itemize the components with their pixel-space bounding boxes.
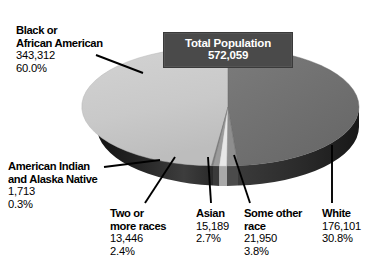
callout-value: 21,950: [244, 232, 302, 245]
callout-two-or-more-races: Two or more races 13,446 2.4%: [110, 207, 166, 257]
callout-category-line2: race: [244, 220, 302, 233]
callout-value: 343,312: [16, 49, 103, 62]
side-wall-asian: [220, 166, 228, 186]
callout-some-other-race: Some other race 21,950 3.8%: [244, 207, 302, 257]
side-wall-some-other-race: [227, 166, 238, 186]
callout-value: 176,101: [322, 220, 361, 233]
callout-value: 13,446: [110, 232, 166, 245]
callout-category-line2: and Alaska Native: [8, 173, 97, 186]
callout-category-line1: Asian: [196, 207, 229, 220]
total-population-value: 572,059: [164, 49, 292, 61]
callout-percent: 0.3%: [8, 198, 97, 211]
callout-category-line1: Black or: [16, 24, 103, 37]
callout-percent: 2.7%: [196, 232, 229, 245]
callout-white: White 176,101 30.8%: [322, 207, 361, 245]
callout-category-line1: American Indian: [8, 160, 97, 173]
callout-american-indian-alaska-native: American Indian and Alaska Native 1,713 …: [8, 160, 97, 210]
callout-percent: 2.4%: [110, 245, 166, 258]
chart-stage: Total Population 572,059 Black or Africa…: [0, 0, 372, 267]
callout-category-line2: African American: [16, 37, 103, 50]
callout-category-line1: Two or: [110, 207, 166, 220]
side-wall-two-or-more-races: [213, 166, 220, 186]
total-population-plaque: Total Population 572,059: [163, 32, 293, 68]
total-population-label: Total Population: [164, 37, 292, 49]
callout-category-line2: more races: [110, 220, 166, 233]
callout-percent: 60.0%: [16, 62, 103, 75]
callout-category-line1: White: [322, 207, 361, 220]
callout-asian: Asian 15,189 2.7%: [196, 207, 229, 245]
callout-percent: 30.8%: [322, 232, 361, 245]
callout-category-line1: Some other: [244, 207, 302, 220]
callout-black-african-american: Black or African American 343,312 60.0%: [16, 24, 103, 74]
callout-percent: 3.8%: [244, 245, 302, 258]
callout-value: 1,713: [8, 185, 97, 198]
pie-chart-figure: Total Population 572,059 Black or Africa…: [0, 0, 372, 267]
callout-value: 15,189: [196, 220, 229, 233]
